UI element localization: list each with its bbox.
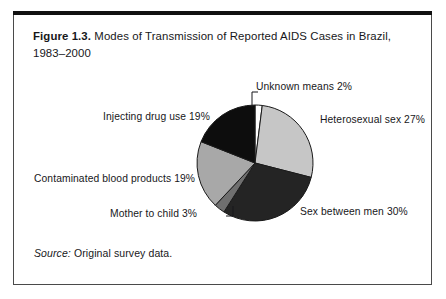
- figure-container: Figure 1.3. Modes of Transmission of Rep…: [0, 0, 446, 299]
- pie-label-injecting-drug-use: Injecting drug use 19%: [103, 110, 210, 123]
- pie-label-sex-between-men: Sex between men 30%: [300, 205, 408, 218]
- source-note: Source: Original survey data.: [34, 247, 172, 259]
- pie-label-blood-products: Contaminated blood products 19%: [34, 172, 195, 185]
- source-label: Source:: [34, 247, 71, 259]
- pie-label-heterosexual-sex: Heterosexual sex 27%: [320, 113, 425, 126]
- figure-top-rule: [13, 11, 432, 15]
- pie-slice-group: [197, 105, 313, 221]
- pie-label-mother-to-child: Mother to child 3%: [110, 207, 197, 220]
- figure-title: Figure 1.3. Modes of Transmission of Rep…: [33, 28, 405, 62]
- figure-number: Figure 1.3.: [33, 30, 91, 42]
- pie-label-unknown-means: Unknown means 2%: [256, 80, 352, 93]
- source-value: Original survey data.: [71, 247, 172, 259]
